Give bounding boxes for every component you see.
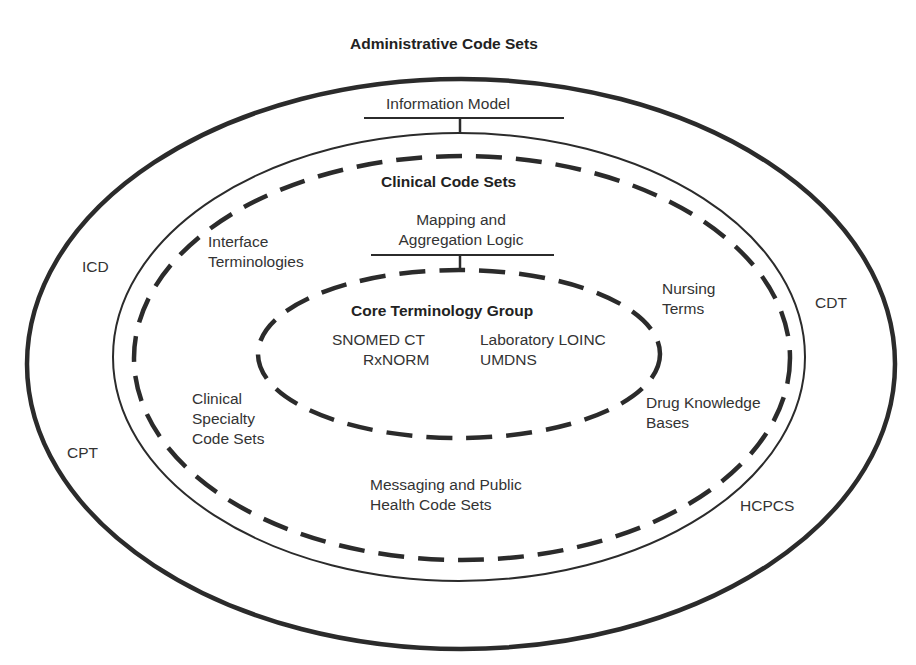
mapping-logic-label: Mapping and Aggregation Logic <box>386 210 536 250</box>
interface-line2: Terminologies <box>208 252 304 272</box>
administrative-title: Administrative Code Sets <box>350 34 538 54</box>
specialty-line3: Code Sets <box>192 429 264 449</box>
mapping-line1: Mapping and <box>386 210 536 230</box>
clinical-title: Clinical Code Sets <box>381 172 516 192</box>
nursing-line2: Terms <box>662 299 715 319</box>
rxnorm-label: RxNORM <box>363 350 429 370</box>
interface-line1: Interface <box>208 232 304 252</box>
icd-label: ICD <box>82 257 109 277</box>
drug-line1: Drug Knowledge <box>646 393 761 413</box>
specialty-line2: Specialty <box>192 409 264 429</box>
messaging-label: Messaging and Public Health Code Sets <box>370 475 522 515</box>
nursing-terms-label: Nursing Terms <box>662 279 715 319</box>
core-title: Core Terminology Group <box>351 301 533 321</box>
interface-terminologies-label: Interface Terminologies <box>208 232 304 272</box>
messaging-line1: Messaging and Public <box>370 475 522 495</box>
information-model-label: Information Model <box>386 94 510 114</box>
drug-line2: Bases <box>646 413 761 433</box>
cpt-label: CPT <box>67 443 98 463</box>
loinc-label: Laboratory LOINC <box>480 330 606 350</box>
clinical-specialty-label: Clinical Specialty Code Sets <box>192 389 264 449</box>
core-terminology-ellipse <box>258 270 660 438</box>
drug-knowledge-label: Drug Knowledge Bases <box>646 393 761 433</box>
administrative-ellipse <box>27 79 895 649</box>
snomed-label: SNOMED CT <box>332 330 425 350</box>
nursing-line1: Nursing <box>662 279 715 299</box>
mapping-line2: Aggregation Logic <box>386 230 536 250</box>
cdt-label: CDT <box>815 293 847 313</box>
messaging-line2: Health Code Sets <box>370 495 522 515</box>
specialty-line1: Clinical <box>192 389 264 409</box>
hcpcs-label: HCPCS <box>740 496 794 516</box>
umdns-label: UMDNS <box>480 350 537 370</box>
